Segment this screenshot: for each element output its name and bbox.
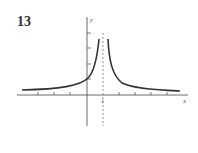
- graph: y x 1: [0, 0, 198, 153]
- y-label: y: [89, 16, 94, 24]
- x-label: x: [182, 97, 187, 105]
- x-ticks: [38, 92, 167, 95]
- x-tick-1-label: 1: [101, 98, 104, 104]
- curve-left: [22, 39, 99, 90]
- curve-right: [108, 39, 180, 91]
- y-ticks: [87, 33, 91, 79]
